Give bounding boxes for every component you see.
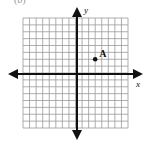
y-axis-up-arrow-icon — [72, 7, 82, 17]
point-label: A — [99, 48, 107, 59]
x-axis-left-arrow-icon — [8, 69, 18, 79]
y-axis-down-arrow-icon — [72, 130, 82, 140]
x-axis-right-arrow-icon — [133, 69, 143, 79]
x-axis-label: x — [135, 79, 140, 89]
coordinate-plane: y x A — [0, 0, 151, 145]
point-marker — [93, 57, 98, 62]
y-axis-label: y — [83, 5, 88, 15]
